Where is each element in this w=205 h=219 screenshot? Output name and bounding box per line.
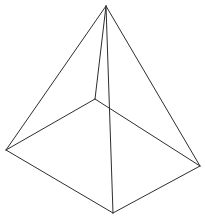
pyramid-wireframe-svg: [0, 0, 205, 219]
edge-base-back-left: [6, 99, 95, 150]
edge-base-front-right: [113, 166, 200, 213]
pyramid-edges: [6, 6, 200, 213]
edge-apex-to-left: [6, 6, 106, 150]
edge-apex-to-right: [106, 6, 200, 166]
pyramid-figure-canvas: [0, 0, 205, 219]
edge-base-left-front: [6, 150, 113, 213]
